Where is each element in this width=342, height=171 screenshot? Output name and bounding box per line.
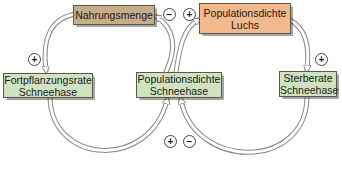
node-hare-density-line1: Populationsdichte: [137, 73, 221, 85]
node-mortality-line2: Schneehase: [280, 84, 336, 96]
node-lynx-density: Populationsdichte Luchs: [199, 3, 291, 34]
node-lynx-line2: Luchs: [200, 19, 290, 31]
arrow-hare-to-lynx: [176, 20, 198, 72]
node-food-amount: Nahrungsmenge: [73, 5, 155, 25]
sign-hare-to-lynx: +: [183, 8, 196, 21]
sign-hare-to-food: −: [163, 8, 176, 21]
arrow-food-to-reproduction: [45, 14, 76, 70]
node-hare-mortality: Sterberate Schneehase: [279, 71, 337, 97]
arrow-reproduction-to-hare: [50, 98, 167, 150]
sign-lynx-to-mortality: +: [315, 53, 328, 66]
sign-mortality-to-hare: −: [183, 135, 196, 148]
node-food-label: Nahrungsmenge: [74, 9, 154, 21]
node-lynx-line1: Populationsdichte: [200, 7, 290, 19]
node-hare-reproduction: Fortpflanzungsrate Schneehase: [3, 73, 93, 98]
sign-reproduction-to-hare: +: [164, 135, 177, 148]
node-hare-density-line2: Schneehase: [137, 85, 221, 97]
arrow-mortality-to-hare: [181, 98, 307, 152]
sign-food-to-reproduction: +: [28, 53, 41, 66]
node-reproduction-line2: Schneehase: [4, 86, 92, 98]
node-hare-density: Populationsdichte Schneehase: [136, 72, 222, 98]
node-mortality-line1: Sterberate: [280, 72, 336, 84]
node-reproduction-line1: Fortpflanzungsrate: [4, 74, 92, 86]
